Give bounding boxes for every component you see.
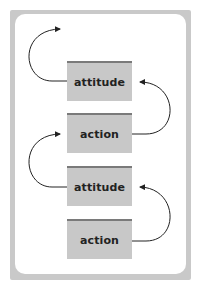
arrow-left-1 [29,29,67,81]
arrow-right-2 [132,187,170,241]
arrow-left-2 [29,134,67,187]
arrow-right-1 [132,82,170,134]
cycle-arrows [0,0,204,288]
arrow-paths [29,29,170,241]
